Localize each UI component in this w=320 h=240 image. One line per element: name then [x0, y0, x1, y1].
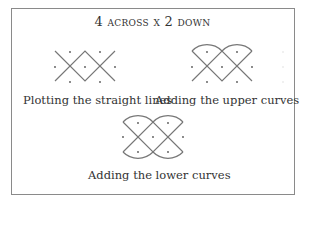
caption-straight-lines: Plotting the straight lines [23, 93, 153, 107]
figure-upper-curves [192, 45, 252, 81]
caption-upper-curves: Adding the upper curves [155, 93, 295, 107]
caption-lower-curves: Adding the lower curves [88, 168, 218, 182]
figure-straight-dots [54, 51, 116, 83]
figure-lower-dots [122, 122, 184, 153]
figure-straight-lines [55, 51, 115, 81]
